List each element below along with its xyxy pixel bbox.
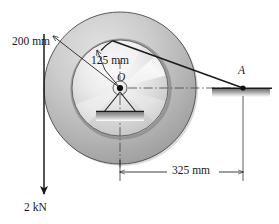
point-A-dot <box>240 85 245 90</box>
figure-canvas: 200 mm 125 mm O A 325 mm 2 kN <box>0 0 279 224</box>
label-point-A: A <box>238 65 245 77</box>
support-block-A <box>212 85 272 97</box>
pulley-diagram-svg <box>0 0 279 224</box>
label-horizontal-distance: 325 mm <box>172 165 210 177</box>
pin-support-hatch-block <box>96 111 144 121</box>
pulley-assembly <box>44 12 198 166</box>
label-inner-radius: 125 mm <box>91 55 129 67</box>
label-load-force: 2 kN <box>24 202 47 214</box>
leader-200mm-arrow <box>53 36 62 43</box>
label-center-point-O: O <box>117 72 125 84</box>
label-outer-radius: 200 mm <box>12 36 50 48</box>
